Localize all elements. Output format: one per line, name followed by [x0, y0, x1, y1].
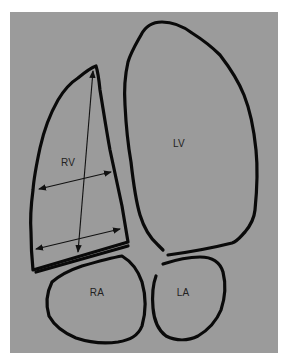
rv-label: RV: [61, 157, 75, 168]
la-outline: [153, 257, 225, 340]
ra-outline: [47, 256, 145, 343]
lv-label: LV: [173, 138, 185, 149]
lv-outline: [125, 22, 257, 255]
diagram-canvas: RV LV RA LA: [0, 0, 288, 360]
rv-mid-diameter-arrow: [39, 172, 111, 189]
la-label: LA: [177, 287, 190, 298]
rv-long-axis-arrow: [78, 71, 93, 252]
heart-chambers-drawing: [0, 0, 288, 360]
ra-label: RA: [90, 287, 104, 298]
